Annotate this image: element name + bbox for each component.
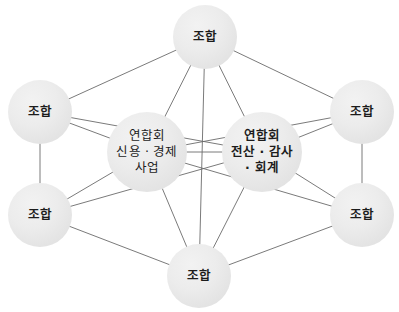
node-label-upper-left: 조합 [28,104,52,120]
connection-line [66,122,113,140]
node-label-hub-right: 연합회 전산 · 감사 · 회계 [231,128,294,176]
connection-line [64,170,116,201]
connection-line [163,62,192,120]
node-label-top: 조합 [193,29,217,45]
node-bottom[interactable]: 조합 [167,244,231,308]
node-lower-left[interactable]: 조합 [8,183,72,247]
node-upper-left[interactable]: 조합 [8,80,72,144]
connection-line [295,122,336,138]
connection-line [217,62,246,120]
connection-line [292,171,338,200]
node-label-lower-left: 조합 [28,207,52,223]
node-label-hub-left: 연합회 신용 · 경제 사업 [116,128,177,176]
node-label-lower-right: 조합 [350,207,374,223]
node-label-bottom: 조합 [187,268,211,284]
connection-line [212,184,246,251]
node-hub-left[interactable]: 연합회 신용 · 경제 사업 [107,112,187,192]
connection-line [65,49,179,101]
node-top[interactable]: 조합 [173,5,237,69]
connection-line [200,65,205,248]
node-label-upper-right: 조합 [350,104,374,120]
connection-line [66,225,173,266]
node-hub-right[interactable]: 연합회 전산 · 감사 · 회계 [222,112,302,192]
connection-line [225,225,336,266]
node-lower-right[interactable]: 조합 [330,183,394,247]
connection-line [161,185,188,250]
connection-line [230,49,336,100]
organization-network-diagram: 조합조합조합조합조합조합연합회 신용 · 경제 사업연합회 전산 · 감사 · … [0,0,399,312]
node-upper-right[interactable]: 조합 [330,80,394,144]
